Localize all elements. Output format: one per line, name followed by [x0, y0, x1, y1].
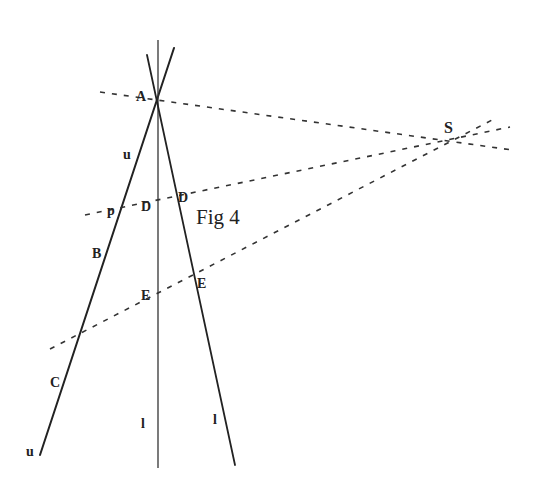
- label-u-bottom: u: [26, 444, 34, 459]
- label-p: p: [107, 203, 115, 218]
- label-D-left: D: [141, 199, 151, 214]
- label-D-right: D: [178, 190, 188, 205]
- label-S: S: [444, 119, 453, 136]
- label-l-right: l: [213, 412, 217, 427]
- label-u-top: u: [123, 147, 131, 162]
- label-E-right: E: [197, 276, 206, 291]
- label-A: A: [136, 89, 147, 104]
- label-l-left: l: [141, 416, 145, 431]
- dashed-line-C-S: [50, 120, 492, 349]
- label-B: B: [92, 246, 101, 261]
- geometric-diagram: A S u p B D D E E C u l l Fig 4: [0, 0, 538, 495]
- label-C: C: [50, 375, 60, 390]
- line-uu: [40, 48, 174, 455]
- figure-caption: Fig 4: [196, 205, 240, 229]
- label-E-left: E: [141, 288, 150, 303]
